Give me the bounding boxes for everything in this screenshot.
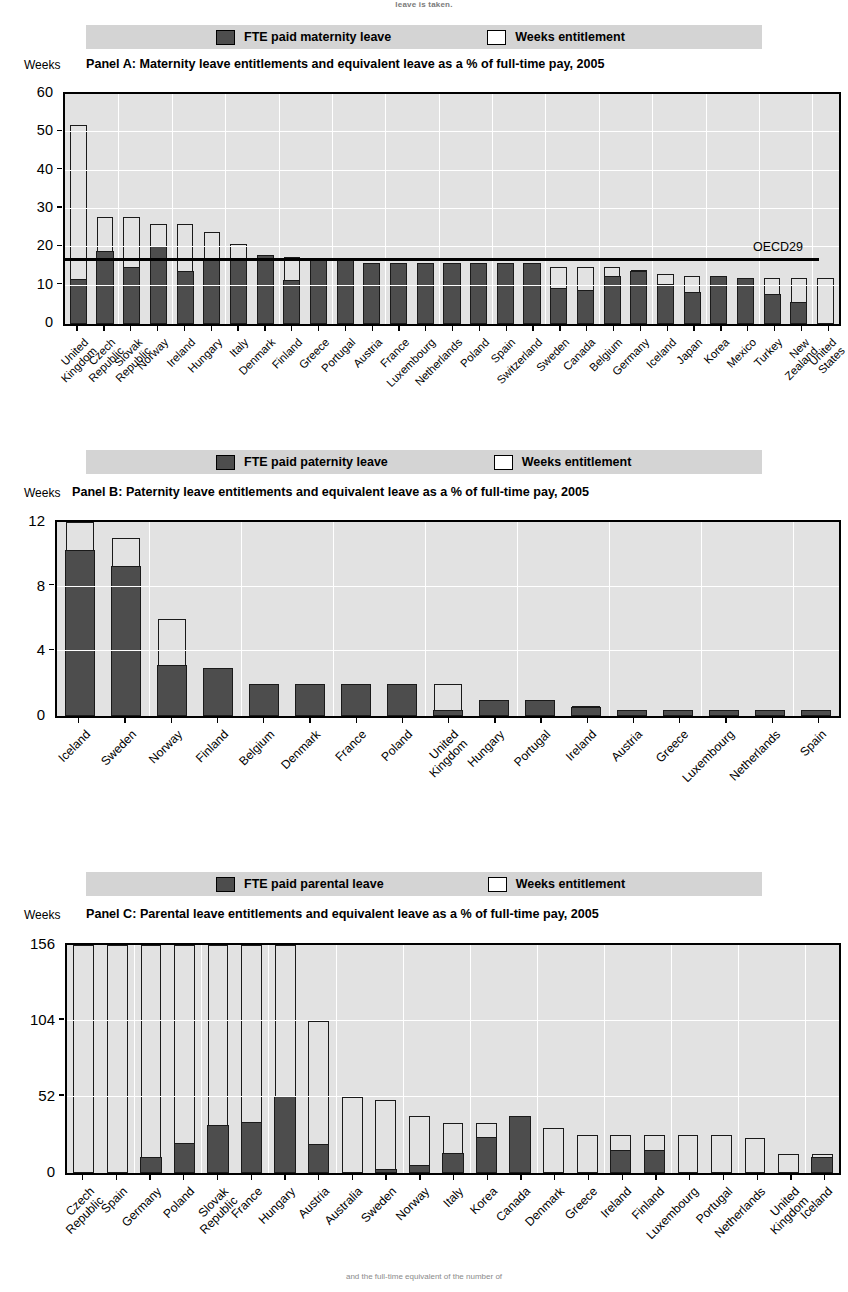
bar-group[interactable] bbox=[57, 522, 103, 716]
bar-entitlement[interactable] bbox=[250, 684, 279, 716]
bar-entitlement[interactable] bbox=[778, 1154, 799, 1173]
bar-entitlement[interactable] bbox=[497, 263, 514, 324]
bar-group[interactable] bbox=[604, 945, 638, 1173]
bar-entitlement[interactable] bbox=[73, 945, 94, 1173]
bar-group[interactable] bbox=[570, 945, 604, 1173]
bar-entitlement[interactable] bbox=[107, 945, 128, 1173]
bar-group[interactable] bbox=[369, 945, 403, 1173]
bar-group[interactable] bbox=[572, 94, 599, 324]
bar-entitlement[interactable] bbox=[434, 684, 463, 716]
bar-entitlement[interactable] bbox=[208, 945, 229, 1173]
bar-group[interactable] bbox=[805, 945, 839, 1173]
bar-entitlement[interactable] bbox=[756, 710, 785, 716]
bar-group[interactable] bbox=[465, 94, 492, 324]
bar-entitlement[interactable] bbox=[141, 945, 162, 1173]
bar-entitlement[interactable] bbox=[480, 700, 509, 716]
bar-group[interactable] bbox=[225, 94, 252, 324]
bar-entitlement[interactable] bbox=[388, 684, 417, 716]
bar-entitlement[interactable] bbox=[66, 522, 95, 716]
bar-entitlement[interactable] bbox=[577, 267, 594, 325]
bar-entitlement[interactable] bbox=[284, 257, 301, 324]
bar-entitlement[interactable] bbox=[631, 270, 648, 324]
bar-entitlement[interactable] bbox=[572, 706, 601, 716]
bar-group[interactable] bbox=[195, 522, 241, 716]
bar-group[interactable] bbox=[436, 945, 470, 1173]
bar-group[interactable] bbox=[772, 945, 806, 1173]
bar-entitlement[interactable] bbox=[618, 710, 647, 716]
bar-group[interactable] bbox=[655, 522, 701, 716]
bar-group[interactable] bbox=[812, 94, 839, 324]
bar-entitlement[interactable] bbox=[275, 945, 296, 1173]
bar-group[interactable] bbox=[287, 522, 333, 716]
bar-group[interactable] bbox=[471, 522, 517, 716]
bar-entitlement[interactable] bbox=[476, 1123, 497, 1173]
bar-entitlement[interactable] bbox=[443, 1123, 464, 1173]
bar-group[interactable] bbox=[332, 94, 359, 324]
bar-group[interactable] bbox=[172, 94, 199, 324]
bar-group[interactable] bbox=[279, 94, 306, 324]
bar-group[interactable] bbox=[379, 522, 425, 716]
bar-group[interactable] bbox=[201, 945, 235, 1173]
bar-group[interactable] bbox=[625, 94, 652, 324]
bar-entitlement[interactable] bbox=[802, 710, 831, 716]
bar-entitlement[interactable] bbox=[711, 276, 728, 324]
bar-group[interactable] bbox=[545, 94, 572, 324]
bar-entitlement[interactable] bbox=[550, 267, 567, 325]
bar-entitlement[interactable] bbox=[444, 263, 461, 324]
bar-entitlement[interactable] bbox=[390, 263, 407, 324]
bar-group[interactable] bbox=[302, 945, 336, 1173]
bar-group[interactable] bbox=[336, 945, 370, 1173]
bar-group[interactable] bbox=[519, 94, 546, 324]
bar-group[interactable] bbox=[793, 522, 839, 716]
bar-entitlement[interactable] bbox=[257, 255, 274, 324]
bar-group[interactable] bbox=[759, 94, 786, 324]
bar-entitlement[interactable] bbox=[308, 1021, 329, 1173]
bar-group[interactable] bbox=[134, 945, 168, 1173]
bar-entitlement[interactable] bbox=[644, 1135, 665, 1173]
bar-group[interactable] bbox=[738, 945, 772, 1173]
bar-group[interactable] bbox=[563, 522, 609, 716]
bar-entitlement[interactable] bbox=[123, 217, 140, 324]
bar-group[interactable] bbox=[67, 945, 101, 1173]
bar-entitlement[interactable] bbox=[150, 224, 167, 324]
bar-entitlement[interactable] bbox=[97, 217, 114, 324]
bar-group[interactable] bbox=[599, 94, 626, 324]
bar-group[interactable] bbox=[118, 94, 145, 324]
bar-entitlement[interactable] bbox=[526, 700, 555, 716]
bar-entitlement[interactable] bbox=[417, 263, 434, 324]
bar-entitlement[interactable] bbox=[657, 274, 674, 324]
bar-group[interactable] bbox=[359, 94, 386, 324]
bar-entitlement[interactable] bbox=[70, 125, 87, 324]
bar-entitlement[interactable] bbox=[710, 710, 739, 716]
bar-group[interactable] bbox=[101, 945, 135, 1173]
bar-group[interactable] bbox=[517, 522, 563, 716]
bar-entitlement[interactable] bbox=[610, 1135, 631, 1173]
bar-group[interactable] bbox=[671, 945, 705, 1173]
bar-group[interactable] bbox=[747, 522, 793, 716]
bar-group[interactable] bbox=[701, 522, 747, 716]
bar-group[interactable] bbox=[168, 945, 202, 1173]
bar-group[interactable] bbox=[706, 94, 733, 324]
bar-group[interactable] bbox=[732, 94, 759, 324]
bar-group[interactable] bbox=[149, 522, 195, 716]
bar-group[interactable] bbox=[333, 522, 379, 716]
bar-group[interactable] bbox=[385, 94, 412, 324]
bar-entitlement[interactable] bbox=[375, 1100, 396, 1173]
bar-entitlement[interactable] bbox=[364, 263, 381, 324]
bar-group[interactable] bbox=[652, 94, 679, 324]
bar-entitlement[interactable] bbox=[678, 1135, 699, 1173]
bar-group[interactable] bbox=[235, 945, 269, 1173]
bar-entitlement[interactable] bbox=[664, 710, 693, 716]
bar-group[interactable] bbox=[492, 94, 519, 324]
bar-group[interactable] bbox=[65, 94, 92, 324]
bar-entitlement[interactable] bbox=[174, 945, 195, 1173]
bar-group[interactable] bbox=[705, 945, 739, 1173]
bar-group[interactable] bbox=[92, 94, 119, 324]
bar-group[interactable] bbox=[470, 945, 504, 1173]
bar-group[interactable] bbox=[503, 945, 537, 1173]
bar-entitlement[interactable] bbox=[177, 224, 194, 324]
bar-entitlement[interactable] bbox=[711, 1135, 732, 1173]
bar-entitlement[interactable] bbox=[604, 267, 621, 325]
bar-group[interactable] bbox=[305, 94, 332, 324]
bar-group[interactable] bbox=[145, 94, 172, 324]
